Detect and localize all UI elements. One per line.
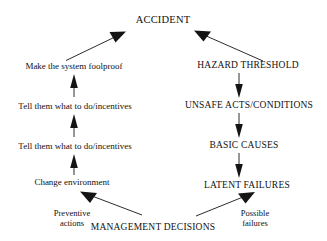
node-make-the-system-foolproof: Make the system foolproof <box>6 61 142 71</box>
node-possible-failures-line2: failures <box>226 219 284 229</box>
edge-basic-to-latent <box>235 153 243 178</box>
edge-tell2-to-tell1 <box>70 114 78 137</box>
diagram-canvas: ACCIDENT HAZARD THRESHOLD UNSAFE ACTS/CO… <box>0 0 327 241</box>
node-preventive-actions-line2: actions <box>42 219 102 229</box>
edge-tell1-to-foolproof <box>70 74 78 97</box>
diagram-arrow-layer <box>0 0 327 241</box>
node-unsafe-acts-conditions: UNSAFE ACTS/CONDITIONS <box>178 100 320 111</box>
node-change-environment: Change environment <box>14 177 130 187</box>
node-tell-them-what-to-do-incentives-upper: Tell them what to do/incentives <box>2 101 148 111</box>
edge-unsafe-to-basic <box>235 113 243 138</box>
node-hazard-threshold: HAZARD THRESHOLD <box>190 60 306 71</box>
node-accident: ACCIDENT <box>113 14 213 26</box>
node-preventive-actions: Preventive actions <box>42 209 102 229</box>
edge-foolproof-to-accident <box>66 32 126 61</box>
edge-hazard-to-unsafe <box>235 73 243 98</box>
node-basic-causes: BASIC CAUSES <box>188 140 300 151</box>
edge-hazard-to-accident <box>194 31 263 62</box>
edge-change-to-tell2 <box>70 154 78 175</box>
node-tell-them-what-to-do-incentives-lower: Tell them what to do/incentives <box>2 141 148 151</box>
node-possible-failures: Possible failures <box>226 209 284 229</box>
node-latent-failures: LATENT FAILURES <box>189 180 305 191</box>
